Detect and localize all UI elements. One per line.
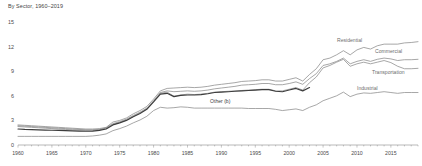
x-tick-label: 1970 (80, 150, 92, 156)
x-tick-label: 2010 (351, 150, 363, 156)
y-axis-tick-labels: 03691215 (8, 19, 14, 148)
y-tick-label: 15 (8, 19, 14, 25)
y-tick-label: 12 (8, 44, 14, 50)
series-label-transportation: Transportation (372, 69, 405, 75)
x-tick-label: 1975 (114, 150, 126, 156)
series-label-other: Other (b) (210, 98, 231, 104)
series-inline-labels: ResidentialCommercialTransportationIndus… (210, 37, 405, 104)
chart-container: By Sector, 1960–2019 03691215 1960196519… (0, 0, 422, 166)
y-tick-label: 9 (11, 68, 14, 74)
x-axis-tick-labels: 1960196519701975198019851990199520002005… (12, 150, 397, 156)
series-label-industrial: Industrial (357, 85, 378, 91)
series-label-residential: Residential (337, 37, 362, 43)
y-tick-label: 0 (11, 142, 14, 148)
x-tick-label: 1995 (250, 150, 262, 156)
line-chart-plot: 03691215 1960196519701975198019851990199… (0, 0, 422, 166)
x-axis (18, 145, 418, 148)
series-line-transportation (18, 59, 418, 130)
y-tick-label: 6 (11, 93, 14, 99)
x-tick-label: 1980 (148, 150, 160, 156)
x-tick-label: 2000 (283, 150, 295, 156)
series-label-commercial: Commercial (375, 48, 402, 54)
x-tick-label: 1990 (216, 150, 228, 156)
x-tick-label: 2005 (317, 150, 329, 156)
x-tick-label: 1985 (182, 150, 194, 156)
x-tick-label: 2015 (385, 150, 397, 156)
x-tick-label: 1960 (12, 150, 24, 156)
x-tick-label: 1965 (46, 150, 58, 156)
y-tick-label: 3 (11, 117, 14, 123)
series-line-other (18, 88, 310, 132)
